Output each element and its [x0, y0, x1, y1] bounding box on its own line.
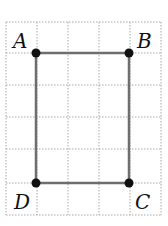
- vertex-b-label: B: [136, 29, 152, 53]
- vertex-a-dot: [32, 49, 41, 58]
- vertex-a-label: A: [11, 29, 27, 53]
- rectangle-abcd: [36, 53, 129, 183]
- vertex-b-dot: [125, 49, 134, 58]
- vertex-d-label: D: [13, 190, 30, 214]
- rectangle-grid-diagram: A B C D: [0, 0, 168, 226]
- vertex-c-dot: [125, 179, 134, 188]
- vertex-d-dot: [32, 179, 41, 188]
- vertex-c-label: C: [135, 190, 150, 214]
